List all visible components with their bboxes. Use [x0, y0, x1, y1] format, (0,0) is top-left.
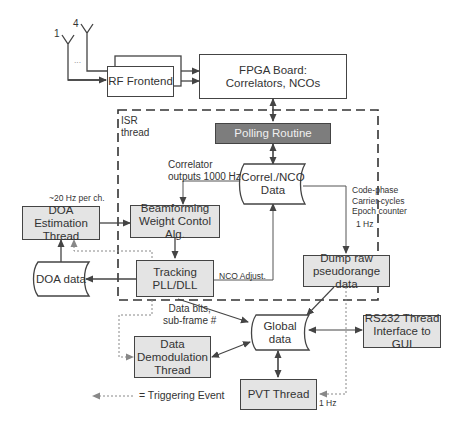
pvt-thread-box: PVT Thread — [240, 379, 317, 410]
legend-triggering-event: = Triggering Event — [139, 390, 225, 402]
fpga-board-box: FPGA Board: Correlators, NCOs — [199, 54, 347, 99]
doa-rate-label: ~20 Hz per ch. — [49, 193, 105, 205]
correl-nco-data-label: Correl./NCO Data — [240, 164, 306, 204]
antenna-1-icon — [62, 35, 106, 80]
code-phase-label: Code-phase Carrier-cycles Epoch counter — [352, 185, 407, 217]
tracking-box: Tracking PLL/DLL — [136, 260, 214, 297]
isr-thread-label: ISR thread — [121, 115, 149, 138]
rf-frontend-box: RF Frontend — [107, 66, 174, 97]
correlator-outputs-label: Correlator outputs 1000 Hz — [168, 159, 241, 182]
antenna-4-icon — [81, 24, 107, 71]
pvt-rate-label: 1 Hz — [319, 398, 336, 410]
data-bits-label: Data bits, sub-frame # — [163, 303, 216, 326]
nco-adjust-label: NCO Adjust. — [219, 271, 266, 283]
dump-raw-box: Dump raw pseudorange data — [303, 255, 390, 287]
antenna-ellipsis: ... — [74, 55, 81, 67]
data-demodulation-box: Data Demodulation Thread — [134, 336, 211, 378]
doa-data-label: DOA data — [34, 262, 88, 296]
beamforming-box: Beamforming Weight Contol Alg. — [130, 205, 220, 238]
doa-estimation-box: DOA Estimation Thread — [22, 206, 100, 240]
global-data-label: Global data — [252, 315, 308, 350]
antenna-1-label: 1 — [54, 28, 60, 40]
rs232-box: RS232 Thread Interface to GUI — [363, 315, 441, 348]
dump-rate-label: 1 Hz — [356, 219, 373, 231]
polling-routine-box: Polling Routine — [215, 123, 331, 144]
antenna-4-label: 4 — [73, 18, 79, 30]
